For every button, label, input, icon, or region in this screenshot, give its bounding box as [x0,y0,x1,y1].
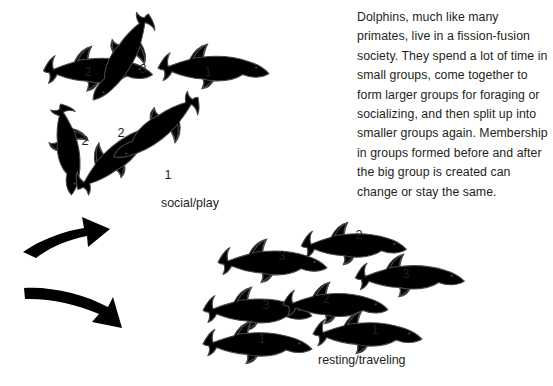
arrow-up [23,217,110,258]
arrow-down [24,288,122,328]
group-social-play: 2 3 1 2 2 1 [42,5,270,205]
dolphin-number: 1 [258,332,265,346]
dolphin-number: 1 [204,65,211,79]
dolphin-number: 2 [117,126,124,140]
dolphin-number: 3 [139,62,146,76]
dolphin-rest-3b [354,251,465,299]
dolphin-social-1a [157,42,269,90]
dolphin-number: 2 [81,134,88,148]
dolphin-number: 2 [322,292,329,306]
group-label-social-play: social/play [161,196,219,210]
dolphin-rest-1a [202,319,312,365]
caption-paragraph: Dolphins, much like many primates, live … [357,8,549,202]
dolphin-number: 3 [402,267,409,281]
group-resting-traveling: 2 3 3 3 2 1 1 [202,219,465,364]
dolphin-number: 3 [262,298,269,312]
dolphin-number: 1 [371,323,378,337]
dolphin-number: 1 [164,168,171,182]
group-label-resting-traveling: resting/traveling [318,353,405,367]
dolphin-number: 3 [278,249,285,263]
dolphin-number: 2 [355,228,362,242]
dolphin-number: 2 [84,65,91,79]
